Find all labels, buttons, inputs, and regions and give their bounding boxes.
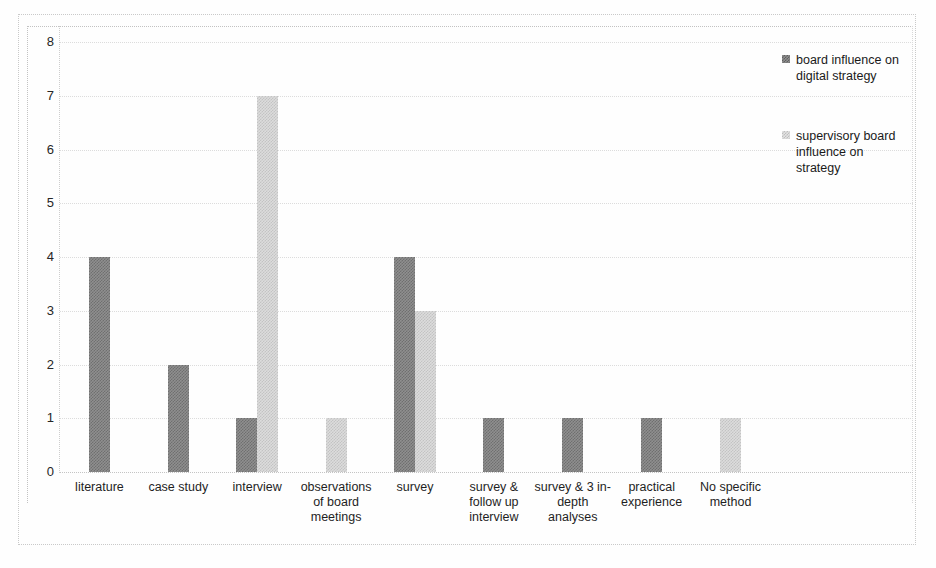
- bar-series2: [257, 96, 278, 472]
- legend-swatch-icon: [782, 131, 790, 139]
- x-axis-category-label: survey: [376, 480, 455, 495]
- x-axis-category-label: case study: [139, 480, 218, 495]
- legend-label: supervisory board influence on strategy: [796, 128, 910, 176]
- x-axis-category-label: No specific method: [691, 480, 770, 510]
- bar-chart-figure: 012345678 literaturecase studyinterviewo…: [0, 0, 936, 568]
- x-axis-category-label: interview: [218, 480, 297, 495]
- bar-series1: [562, 418, 583, 472]
- bar-series1: [236, 418, 257, 472]
- legend-entry-supervisory-board-influence[interactable]: supervisory board influence on strategy: [782, 128, 910, 176]
- x-axis-category-label: survey & follow up interview: [454, 480, 533, 525]
- bar-series1: [483, 418, 504, 472]
- legend-swatch-icon: [782, 55, 790, 63]
- bar-series2: [415, 311, 436, 472]
- bar-series1: [168, 365, 189, 473]
- bar-series1: [89, 257, 110, 472]
- bar-series1: [394, 257, 415, 472]
- bar-series1: [641, 418, 662, 472]
- legend-label: board influence on digital strategy: [796, 52, 910, 84]
- legend-entry-board-influence[interactable]: board influence on digital strategy: [782, 52, 910, 84]
- bar-series2: [720, 418, 741, 472]
- x-axis-category-label: practical experience: [612, 480, 691, 510]
- x-axis-category-label: literature: [60, 480, 139, 495]
- x-axis-category-label: observations of board meetings: [297, 480, 376, 525]
- bar-series2: [326, 418, 347, 472]
- x-axis-category-label: survey & 3 in-depth analyses: [533, 480, 612, 525]
